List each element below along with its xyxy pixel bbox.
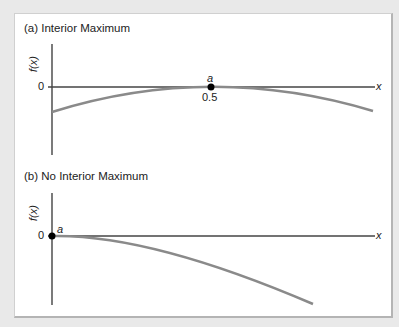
panel-b-title: (b) No Interior Maximum [24,170,148,182]
point-b [49,233,56,240]
panel-a-point-label: a [207,72,213,84]
point-a [208,84,215,91]
panel-a-point-x: 0.5 [202,91,217,103]
chart-canvas [0,0,399,327]
panel-a-ylabel: f(x) [27,56,39,72]
panel-a-title: (a) Interior Maximum [24,22,130,34]
panel-b-xlabel: x [376,229,382,241]
panel-a-xlabel: x [376,80,382,92]
panel-a-zero-tick: 0 [38,80,44,92]
curve-b [52,236,313,304]
panel-b-ylabel: f(x) [27,205,39,221]
panel-b-zero-tick: 0 [38,229,44,241]
panel-b-point-label: a [57,223,63,235]
